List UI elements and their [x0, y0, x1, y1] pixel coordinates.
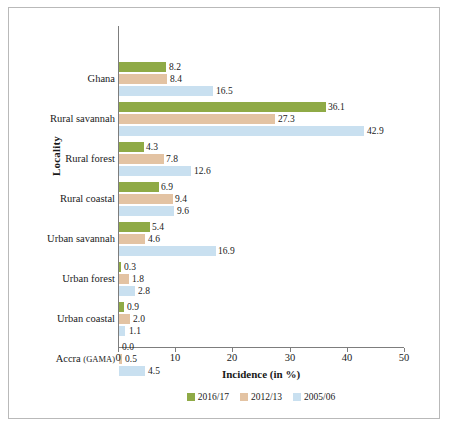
plot-area: Ghana Rural savannah Rural forest Rural …: [118, 26, 404, 348]
bar-rural-forest-2005: [119, 166, 191, 176]
bar-urban-savannah-2016: [119, 222, 150, 232]
bar-urban-coastal-2016: [119, 302, 124, 312]
y-tick-label-rural-savannah: Rural savannah: [7, 114, 119, 125]
bar-value-rural-forest-2005: 12.6: [194, 166, 211, 176]
bar-value-urban-forest-2005: 2.8: [138, 286, 150, 296]
legend-swatch-2012-13: [240, 393, 248, 401]
bar-value-urban-coastal-2016: 0.9: [127, 302, 139, 312]
bar-value-rural-savannah-2005: 42.9: [367, 126, 384, 136]
bar-urban-forest-2005: [119, 286, 135, 296]
bar-value-rural-savannah-2012: 27.3: [278, 114, 295, 124]
bar-value-accra-2005: 4.5: [148, 366, 160, 376]
bar-urban-forest-2016: [119, 262, 121, 272]
y-tick-label-ghana: Ghana: [7, 74, 119, 85]
bar-rural-forest-2016: [119, 142, 144, 152]
bar-rural-coastal-2016: [119, 182, 159, 192]
bar-value-urban-coastal-2005: 1.1: [129, 326, 141, 336]
legend-swatch-2016-17: [187, 393, 195, 401]
bar-urban-coastal-2005: [119, 326, 125, 336]
bar-value-ghana-2012: 8.4: [170, 74, 182, 84]
x-axis-title: Incidence (in %): [118, 368, 404, 380]
bar-rural-forest-2012: [119, 154, 164, 164]
bar-accra-2005: [119, 366, 145, 376]
legend-item-2005-06[interactable]: 2005/06: [293, 392, 335, 402]
bar-urban-savannah-2005: [119, 246, 216, 256]
legend-label-2012-13: 2012/13: [251, 392, 282, 402]
legend-swatch-2005-06: [293, 393, 301, 401]
bar-urban-coastal-2012: [119, 314, 130, 324]
bar-value-accra-2016: 0.0: [122, 342, 134, 352]
bar-value-urban-savannah-2016: 5.4: [152, 222, 164, 232]
bar-value-urban-forest-2016: 0.3: [124, 262, 136, 272]
bar-ghana-2016: [119, 62, 166, 72]
bar-value-urban-savannah-2005: 16.9: [218, 246, 235, 256]
legend-item-2016-17[interactable]: 2016/17: [187, 392, 229, 402]
bar-urban-savannah-2012: [119, 234, 145, 244]
bar-value-ghana-2005: 16.5: [216, 86, 233, 96]
legend-label-2005-06: 2005/06: [304, 392, 335, 402]
legend-item-2012-13[interactable]: 2012/13: [240, 392, 282, 402]
bar-value-rural-coastal-2012: 9.4: [175, 194, 187, 204]
y-tick-label-urban-savannah: Urban savannah: [7, 234, 119, 245]
bar-rural-savannah-2016: [119, 102, 326, 112]
bar-value-rural-forest-2016: 4.3: [146, 142, 158, 152]
legend-label-2016-17: 2016/17: [198, 392, 229, 402]
bar-value-ghana-2016: 8.2: [169, 62, 181, 72]
bar-value-urban-forest-2012: 1.8: [132, 274, 144, 284]
x-tick-label-20: 20: [217, 352, 247, 363]
bar-value-rural-coastal-2016: 6.9: [161, 182, 173, 192]
x-tick-label-0: 0: [103, 352, 133, 363]
y-tick-label-urban-coastal: Urban coastal: [7, 314, 119, 325]
bar-value-rural-coastal-2005: 9.6: [177, 206, 189, 216]
bar-value-urban-coastal-2012: 2.0: [133, 314, 145, 324]
bar-rural-savannah-2005: [119, 126, 364, 136]
bar-rural-savannah-2012: [119, 114, 275, 124]
y-tick-label-urban-forest: Urban forest: [7, 274, 119, 285]
bar-urban-forest-2012: [119, 274, 129, 284]
bar-chart: Locality Incidence (in %) Ghana Rural sa…: [0, 0, 450, 431]
y-tick-label-rural-forest: Rural forest: [7, 154, 119, 165]
x-tick-label-10: 10: [160, 352, 190, 363]
chart-legend: 2016/17 2012/13 2005/06: [118, 392, 404, 402]
bar-ghana-2005: [119, 86, 213, 96]
x-tick-label-50: 50: [389, 352, 419, 363]
x-tick-label-40: 40: [332, 352, 362, 363]
bar-value-urban-savannah-2012: 4.6: [148, 234, 160, 244]
accra-label-main: Accra: [56, 353, 84, 364]
bar-rural-coastal-2005: [119, 206, 174, 216]
y-tick-label-rural-coastal: Rural coastal: [7, 194, 119, 205]
bar-value-rural-forest-2012: 7.8: [166, 154, 178, 164]
bar-rural-coastal-2012: [119, 194, 173, 204]
bar-value-rural-savannah-2016: 36.1: [328, 102, 345, 112]
x-tick-label-30: 30: [275, 352, 305, 363]
bar-ghana-2012: [119, 74, 167, 84]
